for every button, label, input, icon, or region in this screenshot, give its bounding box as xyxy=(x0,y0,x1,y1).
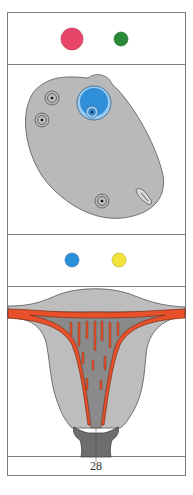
yellow-hormone-dot xyxy=(112,253,126,267)
pink-hormone-dot xyxy=(61,28,83,50)
hormone-row-top xyxy=(61,28,128,50)
cycle-diagram xyxy=(0,0,193,495)
ovary xyxy=(26,75,164,219)
hormone-row-bottom xyxy=(65,253,126,267)
uterus xyxy=(8,289,185,462)
page-number: 28 xyxy=(7,459,185,474)
dominant-follicle xyxy=(77,86,111,120)
blue-hormone-dot xyxy=(65,253,79,267)
green-hormone-dot xyxy=(114,32,128,46)
